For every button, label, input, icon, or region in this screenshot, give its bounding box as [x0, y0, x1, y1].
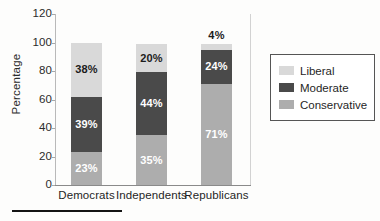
y-tick-label: 120	[6, 8, 52, 19]
bar-segment-liberal[interactable]: 20%	[136, 44, 167, 73]
legend: LiberalModerateConservative	[270, 54, 375, 121]
bar-independents[interactable]: 20%44%35%	[136, 44, 167, 185]
legend-label: Moderate	[300, 82, 349, 94]
axis-spine-left	[55, 14, 56, 186]
bar-republicans[interactable]: 4%24%71%	[201, 44, 232, 185]
bar-segment-value: 4%	[208, 30, 224, 41]
legend-label: Conservative	[300, 99, 367, 111]
bar-segment-value: 38%	[75, 64, 98, 75]
y-tick-label: 20	[6, 151, 52, 162]
bar-segment-value: 24%	[205, 61, 228, 72]
bar-segment-conservative[interactable]: 35%	[136, 135, 167, 185]
bar-segment-value: 23%	[75, 163, 98, 174]
axis-spine-right	[250, 14, 251, 186]
legend-item-moderate[interactable]: Moderate	[279, 79, 367, 96]
legend-item-liberal[interactable]: Liberal	[279, 62, 367, 79]
bar-democrats[interactable]: 38%39%23%	[71, 43, 102, 185]
legend-label: Liberal	[300, 65, 335, 77]
legend-item-conservative[interactable]: Conservative	[279, 96, 367, 113]
legend-swatch-moderate	[279, 83, 294, 92]
x-tick-label-republicans: Republicans	[172, 189, 262, 201]
legend-swatch-conservative	[279, 100, 294, 109]
bar-segment-value: 71%	[205, 129, 228, 140]
bar-segment-moderate[interactable]: 39%	[71, 97, 102, 153]
bar-segment-value: 39%	[75, 119, 98, 130]
bar-segment-conservative[interactable]: 23%	[71, 152, 102, 185]
bar-segment-value: 35%	[140, 155, 163, 166]
bar-segment-conservative[interactable]: 71%	[201, 84, 232, 185]
chart-figure: 020406080100120 Percentage 38%39%23%20%4…	[0, 0, 380, 221]
bar-segment-value: 20%	[140, 53, 163, 64]
bar-segment-liberal[interactable]: 38%	[71, 43, 102, 97]
bar-segment-moderate[interactable]: 44%	[136, 72, 167, 135]
axis-spine-bottom	[55, 185, 251, 186]
plot-area: 38%39%23%20%44%35%4%24%71%	[55, 14, 251, 186]
bar-segment-value: 44%	[140, 98, 163, 109]
bar-segment-moderate[interactable]: 24%	[201, 50, 232, 84]
y-axis-title: Percentage	[10, 29, 22, 139]
y-axis: 020406080100120	[0, 14, 52, 186]
page-rule-artifact	[12, 210, 122, 212]
legend-swatch-liberal	[279, 66, 294, 75]
